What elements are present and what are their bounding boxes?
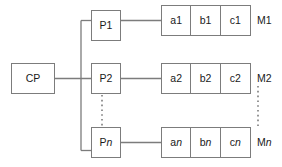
- memory-cell-suffix: n: [176, 137, 182, 148]
- processor-node-p2: P2: [91, 63, 121, 94]
- memory-label-m2-prefix: M: [257, 72, 266, 84]
- memory-cell-suffix: 2: [206, 73, 212, 84]
- processor-label-p2-suffix: 2: [107, 72, 113, 84]
- memory-row-m1: a1 b1 c1: [161, 5, 251, 36]
- memory-label-m1-prefix: M: [257, 14, 266, 26]
- processor-label-pn-suffix: n: [107, 136, 113, 148]
- memory-cell: b1: [191, 6, 220, 35]
- memory-cell-suffix: n: [235, 137, 241, 148]
- processor-label-p1-suffix: 1: [107, 19, 113, 31]
- processor-node-p1: P1: [91, 10, 121, 41]
- memory-label-m2: M2: [257, 73, 272, 84]
- memory-row-mn: an bn cn: [161, 127, 251, 158]
- processor-label-p1-prefix: P: [100, 19, 107, 31]
- memory-label-m1-suffix: 1: [266, 14, 272, 26]
- memory-label-mn-prefix: M: [257, 136, 266, 148]
- memory-cell: c2: [221, 64, 250, 93]
- memory-label-m2-suffix: 2: [266, 72, 272, 84]
- memory-cell: b2: [191, 64, 220, 93]
- memory-row-m2: a2 b2 c2: [161, 63, 251, 94]
- memory-label-mn-suffix: n: [266, 136, 272, 148]
- processor-node-pn: Pn: [91, 127, 121, 158]
- block-diagram: CP P1 P2 Pn a1 b1 c1 M1 a2 b2 c2 M2 an b…: [0, 0, 282, 167]
- memory-cell-suffix: n: [206, 137, 212, 148]
- central-processor-node: CP: [11, 63, 55, 94]
- processor-label-p2: P2: [100, 73, 113, 84]
- memory-cell: cn: [221, 128, 250, 157]
- central-processor-label: CP: [26, 73, 41, 84]
- processor-label-p1: P1: [100, 20, 113, 31]
- memory-cell-suffix: 2: [176, 73, 182, 84]
- memory-cell: a1: [162, 6, 191, 35]
- memory-label-m1: M1: [257, 15, 272, 26]
- memory-cell-suffix: 2: [235, 73, 241, 84]
- processor-label-pn: Pn: [100, 137, 113, 148]
- processor-label-pn-prefix: P: [100, 136, 107, 148]
- memory-cell: c1: [221, 6, 250, 35]
- memory-cell-suffix: 1: [206, 15, 212, 26]
- memory-cell: a2: [162, 64, 191, 93]
- memory-cell-suffix: 1: [176, 15, 182, 26]
- processor-label-p2-prefix: P: [100, 72, 107, 84]
- memory-cell: bn: [191, 128, 220, 157]
- memory-cell-suffix: 1: [235, 15, 241, 26]
- memory-label-mn: Mn: [257, 137, 272, 148]
- memory-cell: an: [162, 128, 191, 157]
